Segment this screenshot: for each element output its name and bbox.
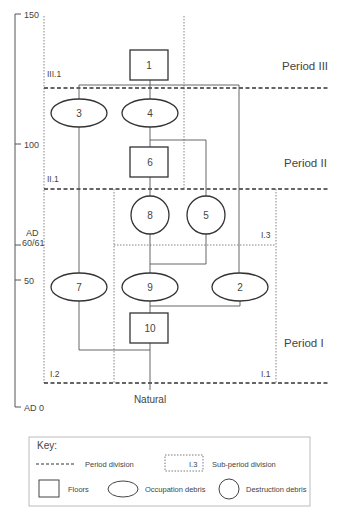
legend-occupation-debris: Occupation debris — [145, 485, 206, 494]
sub-period-label-i1: I.1 — [261, 369, 271, 379]
node-label-6: 6 — [147, 157, 153, 168]
node-label-9: 9 — [147, 282, 153, 293]
sub-period-label-iii1: III.1 — [47, 69, 61, 79]
natural-label: Natural — [134, 394, 166, 405]
tick-label-ad0: AD 0 — [24, 403, 44, 413]
tick-label-100: 100 — [24, 140, 39, 150]
node-label-2: 2 — [237, 282, 243, 293]
period-label-ii: Period II — [284, 157, 327, 169]
node-label-5: 5 — [203, 210, 209, 221]
legend-sub-period-sample: I.3 — [189, 460, 197, 469]
tick-label-ad: AD — [26, 228, 39, 238]
tick-label-50: 50 — [24, 276, 34, 286]
tick-label-150: 150 — [24, 10, 39, 20]
node-label-8: 8 — [147, 210, 153, 221]
node-label-10: 10 — [144, 323, 156, 334]
node-label-1: 1 — [146, 60, 152, 71]
sub-period-label-ii1: II.1 — [47, 174, 59, 184]
legend-title: Key: — [37, 440, 57, 451]
stratigraphic-matrix-diagram: 150 100 AD 60/61 50 AD 0 — [0, 0, 341, 515]
legend-period-division: Period division — [85, 460, 134, 469]
node-label-4: 4 — [147, 108, 153, 119]
legend-box: Key: Period division I.3 Sub-period divi… — [29, 437, 310, 506]
legend-sub-period-division: Sub-period division — [212, 460, 276, 469]
legend-destruction-debris: Destruction debris — [246, 485, 307, 494]
period-label-i: Period I — [284, 337, 324, 349]
period-label-iii: Period III — [282, 60, 328, 72]
node-label-3: 3 — [76, 108, 82, 119]
sub-period-label-i3: I.3 — [261, 230, 271, 240]
tick-label-60-61: 60/61 — [22, 238, 45, 248]
node-label-7: 7 — [76, 282, 82, 293]
legend-floors: Floors — [68, 485, 89, 494]
time-axis — [15, 14, 21, 407]
sub-period-label-i2: I.2 — [50, 369, 60, 379]
